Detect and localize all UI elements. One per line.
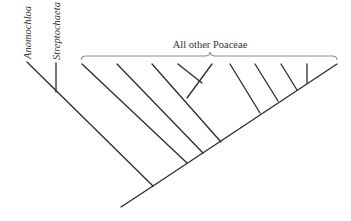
taxon-label-anomochloa: Anomochloa — [22, 6, 33, 60]
tree-branch — [255, 64, 278, 101]
tree-branch — [121, 186, 153, 207]
tree-branch — [281, 64, 297, 90]
taxon-label-streptochaeta: Streptochaeta — [51, 2, 62, 60]
tree-branch — [153, 64, 337, 186]
tree-branch — [82, 64, 187, 163]
phylogenetic-tree: All other Poaceae Anomochloa Streptochae… — [0, 0, 351, 221]
tree-branch — [178, 64, 202, 83]
tree-branch — [230, 64, 260, 113]
branches — [27, 62, 337, 207]
tree-branch — [27, 62, 153, 186]
clade-bracket — [81, 52, 337, 60]
tree-branch — [152, 64, 221, 142]
clade-label: All other Poaceae — [173, 39, 248, 50]
